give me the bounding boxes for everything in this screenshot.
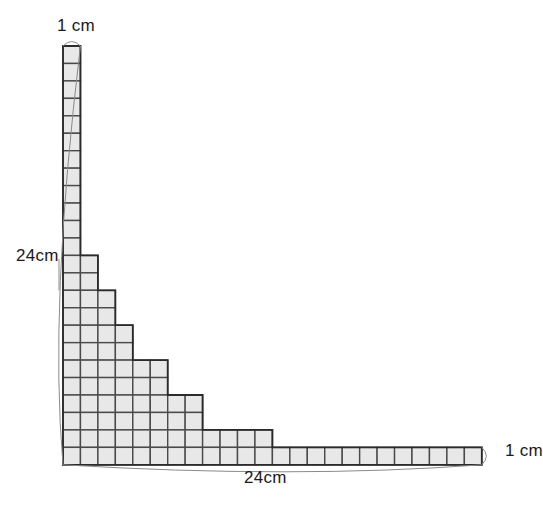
dimension-label-left: 24cm [16,246,59,266]
grid-square [80,447,97,464]
grid-square [115,325,132,342]
grid-square [63,238,80,255]
dimension-label-bottom: 24cm [244,468,287,488]
dimension-label-right: 1 cm [505,441,543,461]
grid-square [98,378,115,395]
grid-square [115,378,132,395]
grid-square [98,395,115,412]
grid-square [63,308,80,325]
grid-square [80,255,97,272]
grid-square [80,430,97,447]
grid-square [447,447,464,464]
grid-square [80,360,97,377]
grid-square [115,360,132,377]
grid-square [63,203,80,220]
grid-square [325,447,342,464]
grid-square [63,273,80,290]
grid-square [63,447,80,464]
dimension-label-top: 1 cm [57,16,95,36]
grid-square [168,430,185,447]
grid-square [272,447,289,464]
grid-square [255,430,272,447]
grid-square [238,447,255,464]
grid-square [185,412,202,429]
grid-square [220,430,237,447]
grid-square [98,325,115,342]
grid-square [255,447,272,464]
grid-square [133,430,150,447]
grid-square [80,395,97,412]
grid-square [80,343,97,360]
grid-square [150,412,167,429]
grid-square [98,360,115,377]
grid-square [63,98,80,115]
grid-square [133,447,150,464]
grid-square [63,133,80,150]
grid-square [150,447,167,464]
grid-square [238,430,255,447]
grid-square [133,360,150,377]
grid-square [412,447,429,464]
grid-square [63,81,80,98]
grid-square [290,447,307,464]
grid-square [168,412,185,429]
grid-square [133,412,150,429]
grid-square [115,343,132,360]
grid-square [63,221,80,238]
grid-square [63,46,80,63]
grid-square [80,308,97,325]
grid-square [203,430,220,447]
grid-square [63,343,80,360]
grid-square [115,412,132,429]
grid-square [63,360,80,377]
grid-square [307,447,324,464]
grid-square [63,412,80,429]
grid-square [63,168,80,185]
grid-square [63,325,80,342]
grid-square [429,447,446,464]
grid-square [80,325,97,342]
grid-square [150,360,167,377]
grid-square [185,395,202,412]
grid-square [115,430,132,447]
grid-square [98,430,115,447]
grid-cells-layer [63,46,482,465]
grid-square [98,447,115,464]
grid-square [98,412,115,429]
grid-square [80,378,97,395]
grid-square [63,290,80,307]
grid-square [185,430,202,447]
grid-square [63,395,80,412]
grid-square [80,273,97,290]
grid-square [133,378,150,395]
grid-square [342,447,359,464]
grid-square [185,447,202,464]
grid-square [168,447,185,464]
grid-square [63,151,80,168]
grid-square [63,430,80,447]
grid-square [150,395,167,412]
grid-square [464,447,481,464]
grid-square [115,395,132,412]
grid-square [377,447,394,464]
grid-square [63,255,80,272]
grid-square [80,290,97,307]
grid-square [220,447,237,464]
grid-square [98,343,115,360]
grid-square [150,378,167,395]
grid-square [360,447,377,464]
grid-square [63,378,80,395]
grid-square [133,395,150,412]
grid-square [168,395,185,412]
grid-square [203,447,220,464]
grid-square [98,308,115,325]
grid-square [98,290,115,307]
grid-square [80,412,97,429]
grid-square [395,447,412,464]
grid-square [150,430,167,447]
grid-square [115,447,132,464]
